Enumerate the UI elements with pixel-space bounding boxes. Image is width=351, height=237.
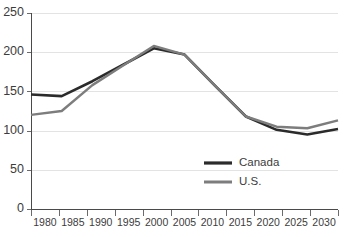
x-tick-label: 2030: [312, 216, 336, 228]
legend-label-canada: Canada: [239, 156, 280, 168]
x-tick-label: 1980: [33, 216, 57, 228]
chart-background: [0, 0, 351, 237]
x-tick-label: 2025: [284, 216, 308, 228]
y-tick-label: 250: [3, 5, 24, 19]
y-tick-label: 0: [17, 201, 24, 215]
legend-label-u-s: U.S.: [239, 175, 261, 187]
x-tick-label: 2020: [257, 216, 281, 228]
y-tick-label: 200: [3, 44, 24, 58]
y-tick-label: 150: [3, 84, 24, 98]
y-tick-label: 100: [3, 123, 24, 137]
x-tick-label: 2010: [201, 216, 225, 228]
x-tick-label: 2005: [173, 216, 197, 228]
x-tick-label: 1985: [61, 216, 85, 228]
y-tick-label: 50: [10, 162, 24, 176]
x-tick-label: 2000: [145, 216, 169, 228]
x-tick-label: 2015: [229, 216, 253, 228]
line-chart-figure: 050100150200250 198019851990199520002005…: [0, 0, 351, 237]
x-axis-tick-labels: 1980198519901995200020052010201520202025…: [33, 216, 336, 228]
chart-svg: 050100150200250 198019851990199520002005…: [0, 0, 351, 237]
x-tick-label: 1995: [117, 216, 141, 228]
x-tick-label: 1990: [89, 216, 113, 228]
